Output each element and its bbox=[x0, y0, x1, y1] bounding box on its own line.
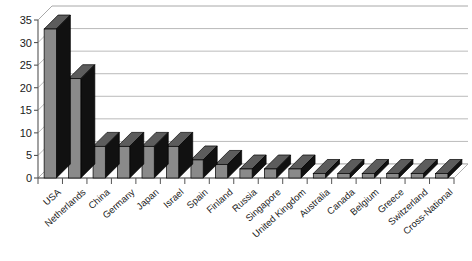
y-axis-tick-label: 15 bbox=[6, 105, 32, 116]
y-axis-tick-label: 30 bbox=[6, 37, 32, 48]
x-axis-ticks bbox=[38, 178, 454, 184]
y-axis-ticks bbox=[34, 20, 38, 178]
chart-canvas bbox=[0, 0, 472, 261]
y-axis-tick-label: 10 bbox=[6, 127, 32, 138]
y-axis-tick-labels: 05101520253035 bbox=[0, 0, 32, 261]
plot-area bbox=[0, 0, 472, 261]
y-axis-tick-label: 20 bbox=[6, 82, 32, 93]
y-axis-tick-label: 25 bbox=[6, 60, 32, 71]
y-axis-tick-label: 5 bbox=[6, 150, 32, 161]
y-axis-tick-label: 35 bbox=[6, 15, 32, 26]
bar bbox=[69, 65, 95, 178]
bar-chart: 05101520253035 USANetherlandsChinaGerman… bbox=[0, 0, 472, 261]
y-axis-tick-label: 0 bbox=[6, 173, 32, 184]
bar bbox=[44, 15, 70, 178]
